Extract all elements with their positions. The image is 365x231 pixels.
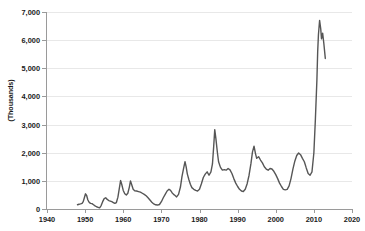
- x-tick-mark: [314, 209, 315, 213]
- x-tick-label: 1980: [180, 215, 220, 224]
- x-tick-label: 2010: [294, 215, 334, 224]
- y-tick-mark: [42, 153, 47, 154]
- y-tick-mark: [42, 40, 47, 41]
- x-tick-mark: [47, 209, 48, 213]
- y-tick-label: 2,000: [0, 148, 40, 157]
- x-tick-mark: [123, 209, 124, 213]
- y-tick-mark: [42, 125, 47, 126]
- x-tick-label: 1970: [141, 215, 181, 224]
- y-tick-mark: [42, 12, 47, 13]
- y-tick-label: 0: [0, 205, 40, 214]
- x-tick-label: 1990: [218, 215, 258, 224]
- plot-area: [47, 12, 352, 209]
- x-tick-label: 1950: [65, 215, 105, 224]
- x-tick-mark: [276, 209, 277, 213]
- x-tick-mark: [352, 209, 353, 213]
- y-tick-label: 7,000: [0, 8, 40, 17]
- x-tick-mark: [238, 209, 239, 213]
- y-tick-mark: [42, 68, 47, 69]
- y-tick-label: 5,000: [0, 64, 40, 73]
- y-tick-mark: [42, 96, 47, 97]
- data-series-line: [47, 12, 352, 209]
- y-tick-label: 4,000: [0, 92, 40, 101]
- x-tick-label: 1960: [103, 215, 143, 224]
- x-tick-label: 2020: [332, 215, 365, 224]
- x-tick-mark: [200, 209, 201, 213]
- y-tick-label: 1,000: [0, 176, 40, 185]
- x-tick-label: 1940: [27, 215, 67, 224]
- y-tick-mark: [42, 181, 47, 182]
- x-tick-label: 2000: [256, 215, 296, 224]
- x-tick-mark: [85, 209, 86, 213]
- y-tick-label: 6,000: [0, 36, 40, 45]
- y-tick-label: 3,000: [0, 120, 40, 129]
- x-tick-mark: [161, 209, 162, 213]
